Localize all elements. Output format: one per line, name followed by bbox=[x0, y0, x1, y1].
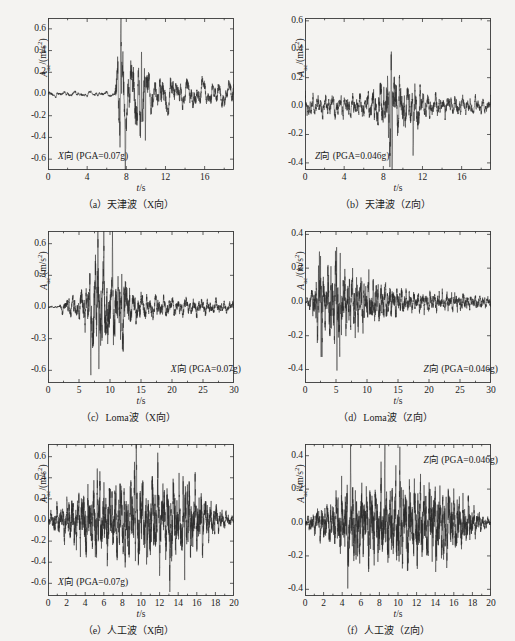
y-tick-labels: 0.60.40.20.0-0.2-0.4 bbox=[269, 18, 303, 170]
chart-panel-c: Aac/(m/s2)0.60.30.0-0.3-0.6051015202530t… bbox=[0, 213, 257, 427]
x-tick-label: 15 bbox=[385, 385, 411, 395]
x-axis-label: t/s bbox=[305, 183, 491, 193]
x-axis-label: t/s bbox=[48, 396, 234, 406]
y-tick-label: 0.0 bbox=[273, 101, 303, 111]
panel-caption-e: （e）人工波（X向） bbox=[0, 622, 257, 637]
chart-panel-a: Aac/(m/s2)0.60.40.20.0-0.2-0.4-0.6048121… bbox=[0, 0, 257, 214]
x-tick-label: 30 bbox=[478, 385, 504, 395]
x-tick-label: 16 bbox=[192, 172, 218, 182]
x-tick-label: 20 bbox=[221, 598, 247, 608]
waveform-plot bbox=[305, 444, 491, 596]
y-tick-label: 0.4 bbox=[273, 451, 303, 461]
figure-page: Aac/(m/s2)0.60.40.20.0-0.2-0.4-0.6048121… bbox=[0, 0, 515, 641]
panel-annotation-c: X向 (PGA=0.07g) bbox=[171, 361, 241, 375]
y-tick-label: -0.2 bbox=[273, 129, 303, 139]
x-tick-label: 0 bbox=[35, 172, 61, 182]
chart-panel-e: Aac/(m/s2)0.60.40.20.0-0.2-0.4-0.6024681… bbox=[0, 426, 257, 640]
x-tick-label: 5 bbox=[323, 385, 349, 395]
y-tick-label: 0.6 bbox=[16, 24, 46, 34]
plot-frame bbox=[306, 19, 491, 170]
y-tick-label: -0.4 bbox=[273, 364, 303, 374]
chart-panel-b: Aac/(m/s2)0.60.40.20.0-0.2-0.40481216t/s… bbox=[257, 0, 514, 214]
y-tick-label: -0.2 bbox=[273, 551, 303, 561]
chart-panel-f: Aac/(m/s2)0.40.20.0-0.2-0.40246810121416… bbox=[257, 426, 514, 640]
panel-caption-c: （c）Loma波（X向） bbox=[0, 409, 257, 424]
acceleration-trace bbox=[48, 231, 234, 375]
y-tick-label: -0.4 bbox=[16, 132, 46, 142]
panel-annotation-d: Z向 (PGA=0.046g) bbox=[424, 361, 499, 375]
x-tick-label: 25 bbox=[447, 385, 473, 395]
y-tick-label: 0.0 bbox=[16, 89, 46, 99]
x-tick-label: 20 bbox=[159, 385, 185, 395]
panel-caption-d: （d）Loma波（Z向） bbox=[257, 409, 514, 424]
plot-frame bbox=[49, 232, 234, 383]
acceleration-trace bbox=[305, 247, 491, 370]
panel-annotation-e: X向 (PGA=0.07g) bbox=[58, 574, 128, 588]
x-tick-label: 0 bbox=[35, 385, 61, 395]
y-tick-label: 0.3 bbox=[16, 270, 46, 280]
x-tick-label: 20 bbox=[478, 598, 504, 608]
y-tick-label: 0.4 bbox=[273, 229, 303, 239]
panel-annotation-f: Z向 (PGA=0.046g) bbox=[424, 452, 499, 466]
x-tick-label: 25 bbox=[190, 385, 216, 395]
y-tick-labels: 0.40.20.0-0.2-0.4 bbox=[269, 231, 303, 383]
y-tick-label: -0.6 bbox=[16, 154, 46, 164]
x-tick-label: 10 bbox=[354, 385, 380, 395]
panel-caption-a: （a）天津波（X向） bbox=[0, 196, 257, 211]
y-tick-label: 0.2 bbox=[16, 67, 46, 77]
x-tick-label: 16 bbox=[449, 172, 475, 182]
y-tick-labels: 0.60.40.20.0-0.2-0.4-0.6 bbox=[12, 18, 46, 170]
y-tick-label: 0.0 bbox=[16, 302, 46, 312]
y-tick-label: 0.0 bbox=[16, 515, 46, 525]
plot-area bbox=[305, 444, 491, 596]
acceleration-trace bbox=[48, 444, 234, 592]
x-axis-label: t/s bbox=[48, 183, 234, 193]
y-tick-labels: 0.60.30.0-0.3-0.6 bbox=[12, 231, 46, 383]
x-tick-label: 20 bbox=[416, 385, 442, 395]
x-tick-label: 5 bbox=[66, 385, 92, 395]
x-axis-label: t/s bbox=[305, 609, 491, 619]
panel-annotation-b: Z向 (PGA=0.046g) bbox=[315, 148, 390, 162]
x-tick-label: 8 bbox=[113, 172, 139, 182]
x-tick-label: 4 bbox=[331, 172, 357, 182]
panel-caption-f: （f）人工波（Z向） bbox=[257, 622, 514, 637]
x-tick-label: 0 bbox=[292, 385, 318, 395]
y-tick-labels: 0.40.20.0-0.2-0.4 bbox=[269, 444, 303, 596]
x-tick-label: 12 bbox=[409, 172, 435, 182]
y-tick-label: -0.6 bbox=[16, 365, 46, 375]
x-tick-label: 0 bbox=[292, 172, 318, 182]
x-tick-label: 15 bbox=[128, 385, 154, 395]
x-tick-label: 4 bbox=[74, 172, 100, 182]
y-tick-label: 0.0 bbox=[273, 297, 303, 307]
x-tick-label: 12 bbox=[152, 172, 178, 182]
y-tick-label: 0.2 bbox=[16, 494, 46, 504]
x-tick-label: 10 bbox=[97, 385, 123, 395]
x-axis-label: t/s bbox=[48, 609, 234, 619]
y-tick-label: 0.0 bbox=[273, 518, 303, 528]
y-tick-label: 0.4 bbox=[16, 473, 46, 483]
y-tick-labels: 0.60.40.20.0-0.2-0.4-0.6 bbox=[12, 444, 46, 596]
y-tick-label: 0.6 bbox=[16, 452, 46, 462]
y-tick-label: -0.2 bbox=[16, 536, 46, 546]
y-tick-label: 0.6 bbox=[16, 239, 46, 249]
y-tick-label: 0.2 bbox=[273, 484, 303, 494]
panel-annotation-a: X向 (PGA=0.07g) bbox=[58, 148, 128, 162]
y-tick-label: -0.2 bbox=[16, 111, 46, 121]
y-tick-label: 0.2 bbox=[273, 263, 303, 273]
y-tick-label: 0.4 bbox=[16, 46, 46, 56]
y-tick-label: -0.6 bbox=[16, 578, 46, 588]
y-tick-label: -0.4 bbox=[273, 158, 303, 168]
y-tick-label: -0.3 bbox=[16, 334, 46, 344]
x-axis-label: t/s bbox=[305, 396, 491, 406]
chart-panel-d: Aac/(m/s2)0.40.20.0-0.2-0.4051015202530t… bbox=[257, 213, 514, 427]
y-tick-label: -0.4 bbox=[273, 584, 303, 594]
x-tick-label: 8 bbox=[370, 172, 396, 182]
y-tick-label: 0.4 bbox=[273, 44, 303, 54]
y-tick-label: 0.2 bbox=[273, 73, 303, 83]
y-tick-label: 0.6 bbox=[273, 16, 303, 26]
y-tick-label: -0.4 bbox=[16, 557, 46, 567]
x-tick-label: 30 bbox=[221, 385, 247, 395]
panel-caption-b: （b）天津波（Z向） bbox=[257, 196, 514, 211]
y-tick-label: -0.2 bbox=[273, 331, 303, 341]
